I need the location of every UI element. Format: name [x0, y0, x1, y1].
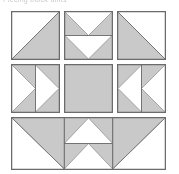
hst-top-right-svg [118, 12, 165, 59]
unit-flying-geese-pair-right [11, 64, 60, 113]
unit-bottom-row-strip [11, 117, 166, 170]
figure-caption: Piecing block units [3, 0, 73, 4]
geese-left-svg [118, 65, 165, 112]
bottom-strip-svg [12, 118, 165, 169]
unit-flying-geese-pair-down [64, 11, 113, 60]
solid-shaded-fill [65, 65, 112, 112]
quilt-diagram-canvas: Piecing block units [0, 0, 179, 174]
unit-half-square-triangle-top-left [11, 11, 60, 60]
unit-solid-center-square [64, 64, 113, 113]
unit-half-square-triangle-top-right [117, 11, 166, 60]
geese-down-svg [65, 12, 112, 59]
hst-top-left-svg [12, 12, 59, 59]
unit-flying-geese-pair-left [117, 64, 166, 113]
center-square-svg [65, 65, 112, 112]
geese-right-svg [12, 65, 59, 112]
